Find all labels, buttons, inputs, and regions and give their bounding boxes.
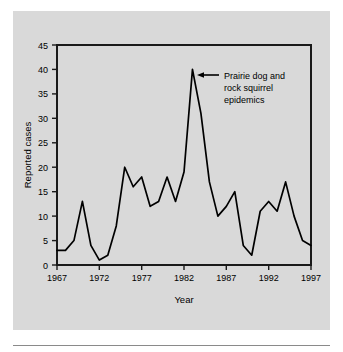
annotation-line-1: Prairie dog and <box>224 71 285 81</box>
caption-divider <box>13 345 330 346</box>
x-axis-title: Year <box>174 294 193 305</box>
x-tick-label-1987: 1987 <box>216 273 236 283</box>
x-tick-label-1992: 1992 <box>259 273 279 283</box>
figure-container: 45 40 35 30 25 20 15 10 5 0 1967 1972 19… <box>0 0 343 352</box>
x-tick-label-1967: 1967 <box>47 273 67 283</box>
x-tick-label-1997: 1997 <box>301 273 321 283</box>
y-tick-label-5: 5 <box>43 236 48 246</box>
y-tick-label-35: 35 <box>38 89 48 99</box>
data-series-line <box>57 69 311 260</box>
y-tick-label-25: 25 <box>38 138 48 148</box>
y-axis-title: Reported cases <box>22 121 33 188</box>
y-tick-label-15: 15 <box>38 187 48 197</box>
chart-svg: 45 40 35 30 25 20 15 10 5 0 1967 1972 19… <box>0 0 343 352</box>
annotation-line-3: epidemics <box>224 95 265 105</box>
x-tick-label-1972: 1972 <box>89 273 109 283</box>
x-tick-label-1977: 1977 <box>132 273 152 283</box>
y-tick-label-30: 30 <box>38 114 48 124</box>
annotation-arrow-icon <box>197 72 219 78</box>
y-tick-label-45: 45 <box>38 41 48 51</box>
y-tick-label-10: 10 <box>38 212 48 222</box>
annotation-line-2: rock squirrel <box>224 83 273 93</box>
y-tick-label-20: 20 <box>38 163 48 173</box>
y-tick-label-40: 40 <box>38 65 48 75</box>
x-tick-label-1982: 1982 <box>174 273 194 283</box>
y-tick-label-0: 0 <box>43 261 48 271</box>
